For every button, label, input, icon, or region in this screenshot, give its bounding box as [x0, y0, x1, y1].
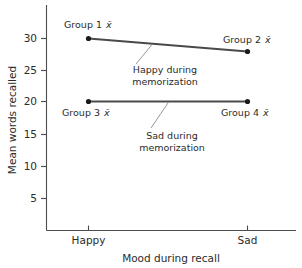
point-label-group4-mean: x̄ — [262, 107, 269, 118]
line-chart: 30 25 20 15 10 5 Happy Sad Mood during r… — [0, 0, 302, 268]
y-tick-label-10: 10 — [24, 160, 37, 172]
x-tick-label-happy: Happy — [72, 234, 106, 246]
y-tick-label-20: 20 — [24, 95, 37, 107]
annotation-happy-line2: memorization — [132, 76, 198, 87]
y-tick-label-25: 25 — [24, 64, 37, 76]
y-tick-label-5: 5 — [30, 192, 37, 204]
data-point-group1 — [86, 36, 91, 41]
data-point-group4 — [245, 99, 250, 104]
point-label-group1-mean: x̄ — [105, 19, 112, 30]
annotation-sad-leader — [151, 103, 168, 128]
annotation-happy-leader — [136, 45, 152, 65]
point-label-group3-text: Group 3 — [62, 107, 100, 118]
point-label-group4: Group 4x̄ — [221, 107, 269, 118]
chart-container: 30 25 20 15 10 5 Happy Sad Mood during r… — [0, 0, 302, 268]
annotation-sad-line2: memorization — [139, 142, 205, 153]
point-label-group2-mean: x̄ — [264, 34, 271, 45]
point-label-group1-text: Group 1 — [64, 19, 102, 30]
x-axis-title: Mood during recall — [122, 252, 220, 264]
point-label-group2-text: Group 2 — [223, 34, 261, 45]
point-label-group3-mean: x̄ — [103, 107, 110, 118]
y-tick-label-30: 30 — [24, 32, 37, 44]
data-point-group2 — [245, 49, 250, 54]
point-label-group3: Group 3x̄ — [62, 107, 110, 118]
point-label-group2: Group 2x̄ — [223, 34, 271, 45]
data-point-group3 — [86, 99, 91, 104]
x-tick-label-sad: Sad — [238, 234, 258, 246]
annotation-happy-line1: Happy during — [133, 64, 197, 75]
annotation-sad-line1: Sad during — [146, 130, 198, 141]
point-label-group4-text: Group 4 — [221, 107, 259, 118]
point-label-group1: Group 1x̄ — [64, 19, 112, 30]
y-axis-title: Mean words recalled — [6, 66, 18, 174]
y-tick-label-15: 15 — [24, 128, 37, 140]
